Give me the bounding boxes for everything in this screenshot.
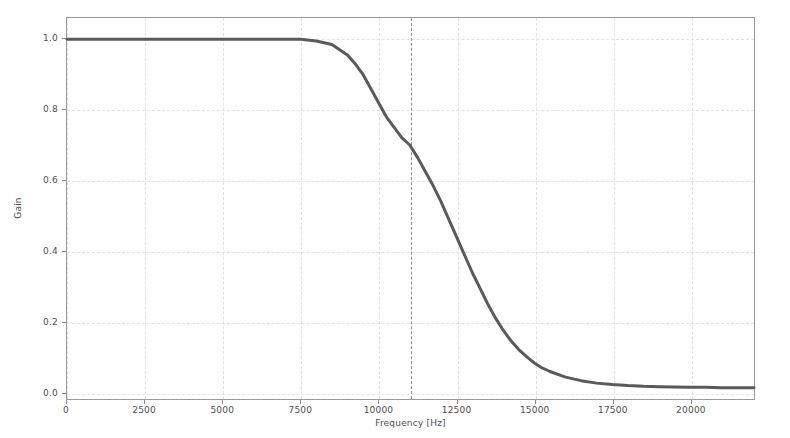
y-tick-mark [62, 38, 66, 39]
y-tick-mark [62, 322, 66, 323]
y-tick-label: 0.2 [43, 317, 58, 327]
y-tick-label: 1.0 [43, 33, 58, 43]
x-tick-label: 0 [63, 405, 69, 415]
x-tick-mark [535, 400, 536, 404]
y-tick-label: 0.8 [43, 104, 58, 114]
x-tick-mark [144, 400, 145, 404]
x-tick-label: 7500 [288, 405, 312, 415]
y-tick-mark [62, 180, 66, 181]
y-tick-mark [62, 393, 66, 394]
x-tick-label: 17500 [598, 405, 628, 415]
gain-response-curve [67, 18, 754, 399]
y-tick-label: 0.4 [43, 246, 58, 256]
x-tick-label: 12500 [442, 405, 472, 415]
x-tick-mark [457, 400, 458, 404]
x-tick-mark [691, 400, 692, 404]
chart-figure: 02500500075001000012500150001750020000 0… [0, 0, 790, 438]
x-tick-label: 20000 [676, 405, 706, 415]
x-tick-label: 5000 [210, 405, 234, 415]
x-tick-mark [222, 400, 223, 404]
x-tick-label: 15000 [520, 405, 550, 415]
y-tick-mark [62, 251, 66, 252]
plot-area [66, 17, 755, 400]
x-tick-mark [300, 400, 301, 404]
x-tick-mark [613, 400, 614, 404]
x-tick-mark [66, 400, 67, 404]
x-tick-mark [378, 400, 379, 404]
y-tick-mark [62, 109, 66, 110]
x-tick-label: 2500 [132, 405, 156, 415]
x-axis-label: Frequency [Hz] [66, 418, 755, 428]
y-axis-label: Gain [13, 197, 23, 219]
x-tick-label: 10000 [364, 405, 394, 415]
y-tick-label: 0.6 [43, 175, 58, 185]
y-tick-label: 0.0 [43, 388, 58, 398]
